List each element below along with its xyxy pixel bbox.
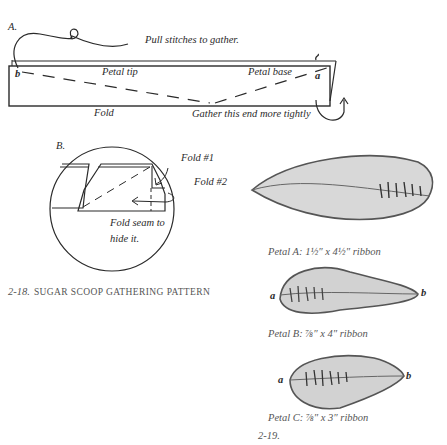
petal-c-end-b: b [406, 370, 411, 381]
petal-a-drawing [252, 156, 433, 220]
petal-b-caption: Petal B: ⅞″ x 4″ ribbon [268, 328, 368, 339]
petal-b-end-a: a [270, 290, 275, 301]
fold-seam-note-line1: Fold seam to [110, 217, 165, 228]
gather-note: Gather this end more tightly [192, 108, 311, 119]
petal-c-drawing [290, 356, 404, 409]
petal-c-caption: Petal C: ⅞″ x 3″ ribbon [268, 412, 368, 423]
pull-stitches-instruction: Pull stitches to gather. [145, 34, 239, 45]
end-a-label: a [315, 70, 320, 81]
thread-line [14, 29, 128, 68]
figure-2-19-caption: 2-19. [258, 430, 280, 441]
figure-2-18-caption: 2-18. SUGAR SCOOP GATHERING PATTERN [8, 281, 210, 299]
caption-title: SUGAR SCOOP GATHERING PATTERN [34, 287, 210, 297]
figure-a-label: A. [8, 21, 17, 32]
gathering-diagram-artwork [0, 0, 447, 445]
petal-b-end-b: b [421, 287, 426, 298]
figure-b-label: B. [56, 140, 65, 151]
petal-c-end-a: a [278, 374, 283, 385]
fold-1-label: Fold #1 [181, 152, 214, 163]
fold-seam-note-line2: hide it. [110, 233, 139, 244]
end-b-label: b [15, 68, 20, 79]
petal-base-label: Petal base [248, 66, 292, 77]
petal-a-caption: Petal A: 1½″ x 4½″ ribbon [268, 246, 381, 257]
caption-number: 2-18. [8, 286, 30, 297]
fold-2-label: Fold #2 [194, 176, 227, 187]
petal-tip-label: Petal tip [102, 66, 138, 77]
petal-b-drawing [280, 268, 418, 313]
fold-label: Fold [94, 107, 114, 118]
